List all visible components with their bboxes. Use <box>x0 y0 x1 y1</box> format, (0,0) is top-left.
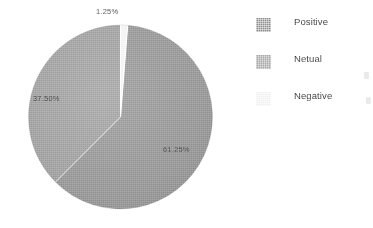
pie-label-negative: 1.25% <box>96 7 118 16</box>
legend-item-positive[interactable]: Positive <box>256 14 368 51</box>
legend-swatch-netual <box>256 55 271 69</box>
chart-legend: Positive Netual Negative <box>256 14 368 125</box>
legend-item-netual[interactable]: Netual <box>256 51 368 88</box>
legend-label-netual: Netual <box>294 53 322 64</box>
legend-label-positive: Positive <box>294 16 328 27</box>
pie-chart-plot-area <box>28 24 213 210</box>
scan-artifact-upper <box>364 72 369 79</box>
legend-swatch-negative <box>256 92 271 106</box>
legend-item-negative[interactable]: Negative <box>256 88 368 125</box>
pie-chart-figure: 1.25% 37.50% 61.25% Positive Netual Nega… <box>0 0 373 228</box>
pie-label-positive: 61.25% <box>163 145 190 154</box>
pie-chart-svg <box>28 24 213 210</box>
legend-swatch-positive <box>256 18 271 32</box>
scan-artifact-lower <box>366 97 371 104</box>
pie-label-netual: 37.50% <box>33 94 60 103</box>
legend-label-negative: Negative <box>294 90 332 101</box>
pie-shading-overlay <box>29 25 213 209</box>
